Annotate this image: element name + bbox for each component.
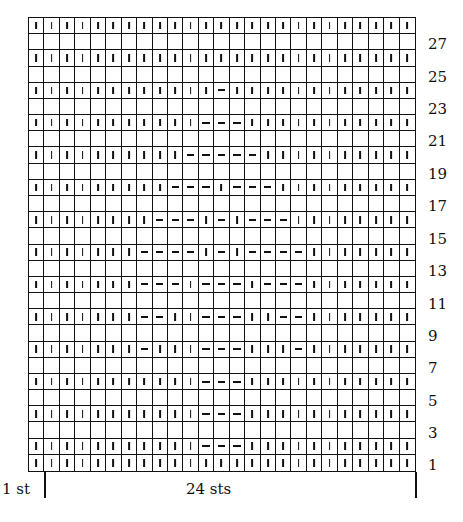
knit-cell — [137, 180, 152, 196]
blank-cell — [122, 325, 137, 341]
blank-cell — [199, 358, 214, 374]
knit-cell — [245, 309, 260, 325]
row-label: 9 — [428, 328, 438, 344]
blank-cell — [245, 358, 260, 374]
knit-cell — [168, 83, 183, 99]
blank-cell — [44, 325, 59, 341]
knit-cell — [199, 245, 214, 261]
knit-cell — [183, 406, 198, 422]
knit-cell — [199, 18, 214, 34]
blank-cell — [153, 390, 168, 406]
purl-cell — [214, 439, 229, 455]
knit-cell — [245, 406, 260, 422]
blank-cell — [307, 325, 322, 341]
blank-cell — [384, 293, 399, 309]
repeat-label: 24 sts — [186, 480, 231, 498]
knit-cell — [29, 374, 44, 390]
purl-cell — [214, 374, 229, 390]
purl-cell — [230, 309, 245, 325]
blank-cell — [168, 67, 183, 83]
blank-cell — [44, 228, 59, 244]
knit-cell — [291, 115, 306, 131]
blank-cell — [307, 390, 322, 406]
knit-cell — [353, 50, 368, 66]
blank-cell — [322, 99, 337, 115]
knit-cell — [91, 83, 106, 99]
knit-cell — [353, 309, 368, 325]
blank-cell — [322, 261, 337, 277]
blank-cell — [384, 131, 399, 147]
blank-cell — [245, 325, 260, 341]
knit-cell — [384, 439, 399, 455]
knit-cell — [91, 309, 106, 325]
purl-cell — [214, 342, 229, 358]
blank-cell — [369, 34, 384, 50]
blank-cell — [369, 261, 384, 277]
purl-cell — [230, 147, 245, 163]
knit-cell — [291, 439, 306, 455]
blank-cell — [322, 293, 337, 309]
blank-cell — [106, 131, 121, 147]
blank-cell — [75, 99, 90, 115]
blank-cell — [369, 422, 384, 438]
knit-cell — [261, 342, 276, 358]
knit-cell — [91, 455, 106, 471]
purl-cell — [245, 245, 260, 261]
blank-cell — [230, 131, 245, 147]
blank-cell — [91, 325, 106, 341]
blank-cell — [106, 358, 121, 374]
blank-cell — [44, 131, 59, 147]
blank-cell — [322, 390, 337, 406]
knit-cell — [122, 147, 137, 163]
knit-cell — [153, 439, 168, 455]
knit-cell — [245, 83, 260, 99]
blank-cell — [60, 390, 75, 406]
knit-cell — [137, 83, 152, 99]
knit-cell — [168, 147, 183, 163]
knit-cell — [384, 455, 399, 471]
purl-cell — [137, 245, 152, 261]
blank-cell — [44, 34, 59, 50]
blank-cell — [153, 293, 168, 309]
blank-cell — [338, 261, 353, 277]
knit-cell — [75, 455, 90, 471]
blank-cell — [353, 261, 368, 277]
knit-cell — [230, 455, 245, 471]
blank-cell — [369, 390, 384, 406]
blank-cell — [91, 196, 106, 212]
knit-cell — [322, 439, 337, 455]
blank-cell — [245, 293, 260, 309]
blank-cell — [75, 358, 90, 374]
knit-cell — [322, 342, 337, 358]
knit-cell — [168, 439, 183, 455]
blank-cell — [183, 422, 198, 438]
knit-cell — [400, 83, 415, 99]
knit-cell — [353, 115, 368, 131]
blank-cell — [122, 67, 137, 83]
blank-cell — [291, 67, 306, 83]
blank-cell — [183, 34, 198, 50]
purl-cell — [230, 374, 245, 390]
blank-cell — [353, 131, 368, 147]
blank-cell — [60, 422, 75, 438]
blank-cell — [214, 228, 229, 244]
knit-cell — [183, 374, 198, 390]
knit-cell — [153, 18, 168, 34]
blank-cell — [106, 164, 121, 180]
knit-cell — [291, 374, 306, 390]
knit-cell — [75, 342, 90, 358]
knit-cell — [322, 50, 337, 66]
knit-cell — [91, 439, 106, 455]
knit-cell — [276, 439, 291, 455]
purl-cell — [199, 277, 214, 293]
knit-cell — [400, 309, 415, 325]
knit-cell — [214, 50, 229, 66]
knit-cell — [183, 115, 198, 131]
purl-cell — [291, 245, 306, 261]
purl-cell — [183, 245, 198, 261]
blank-cell — [338, 228, 353, 244]
knit-cell — [322, 245, 337, 261]
knit-cell — [106, 18, 121, 34]
purl-cell — [245, 180, 260, 196]
knit-cell — [384, 277, 399, 293]
